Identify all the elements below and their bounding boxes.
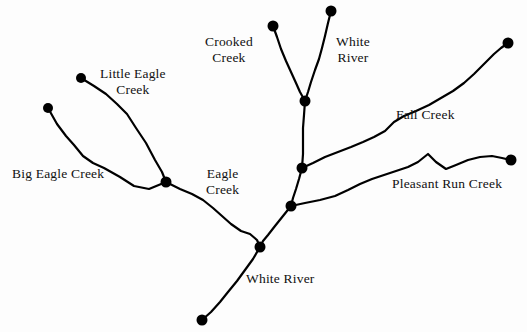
river-node-white-river-mouth: [197, 315, 208, 326]
river-label-line-1: Eagle: [206, 166, 239, 182]
river-node-little-eagle-creek-source: [76, 73, 86, 83]
river-node-crooked-white-confluence: [300, 96, 311, 107]
river-label-line-1: White River: [246, 271, 315, 287]
river-label-crooked-creek: CrookedCreek: [205, 34, 253, 65]
river-label-line-2: Creek: [206, 182, 239, 198]
river-node-pleasant-run-confluence: [286, 201, 297, 212]
river-label-line-2: Creek: [205, 50, 253, 66]
river-label-line-1: Pleasant Run Creek: [392, 176, 502, 192]
river-label-eagle-creek: EagleCreek: [206, 166, 239, 197]
river-label-fall-creek: Fall Creek: [396, 107, 455, 123]
river-node-big-eagle-creek-source: [43, 103, 53, 113]
river-label-white-river-top: WhiteRiver: [336, 34, 370, 65]
river-reach-white-river-lower: [260, 206, 291, 247]
river-node-crooked-creek-source: [268, 21, 279, 32]
river-label-line-1: White: [336, 34, 370, 50]
river-reach-fall-creek: [302, 43, 508, 168]
river-label-little-eagle-creek: Little EagleCreek: [100, 66, 166, 97]
river-label-line-1: Crooked: [205, 34, 253, 50]
river-node-white-river-source: [326, 6, 337, 17]
river-reach-crooked-creek: [273, 26, 305, 101]
river-reach-white-river-upper: [305, 11, 331, 101]
river-label-white-river-bottom: White River: [246, 271, 315, 287]
river-label-line-1: Little Eagle: [100, 66, 166, 82]
river-node-eagle-white-confluence: [255, 242, 266, 253]
river-node-eagle-creek-confluence: [161, 177, 172, 188]
river-label-line-1: Fall Creek: [396, 107, 455, 123]
river-node-pleasant-run-creek-source: [506, 155, 517, 166]
river-network-figure: Little EagleCreekBig Eagle CreekEagleCre…: [0, 0, 527, 332]
river-label-line-2: River: [336, 50, 370, 66]
river-node-fall-creek-confluence: [297, 163, 308, 174]
river-label-big-eagle-creek: Big Eagle Creek: [12, 166, 104, 182]
river-node-fall-creek-source: [503, 38, 514, 49]
river-label-line-1: Big Eagle Creek: [12, 166, 104, 182]
river-reach-white-river-mid-lower: [291, 168, 302, 206]
river-label-line-2: Creek: [100, 82, 166, 98]
river-reach-white-river-mid: [302, 101, 305, 168]
river-label-pleasant-run-creek: Pleasant Run Creek: [392, 176, 502, 192]
